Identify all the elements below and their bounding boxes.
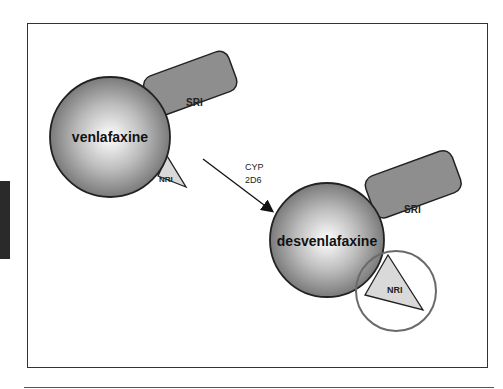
venlafaxine-label: venlafaxine [72, 129, 148, 145]
desvenlafaxine-nri-label: NRI [387, 285, 403, 295]
enzyme-label-line1: CYP [245, 162, 264, 172]
diagram-canvas: SRI venlafaxine NRI CYP 2D6 SRI desvenla… [0, 0, 503, 389]
venlafaxine-sri-label: SRI [186, 97, 203, 108]
venlafaxine-molecule: SRI venlafaxine NRI [50, 48, 240, 197]
desvenlafaxine-sri-label: SRI [404, 204, 421, 215]
enzyme-label-line2: 2D6 [245, 175, 262, 185]
venlafaxine-nri-label: NRI [159, 175, 173, 184]
desvenlafaxine-molecule: SRI desvenlafaxine NRI [270, 148, 464, 331]
metabolism-arrow: CYP 2D6 [203, 159, 272, 211]
desvenlafaxine-label: desvenlafaxine [277, 233, 378, 249]
